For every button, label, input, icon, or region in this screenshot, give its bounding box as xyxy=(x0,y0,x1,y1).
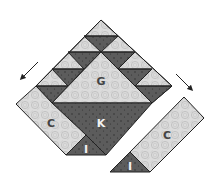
quilt-diagram: G K C I C I xyxy=(0,0,215,180)
label-g: G xyxy=(96,75,105,88)
arrow-left-icon xyxy=(22,62,38,78)
label-c-right: C xyxy=(163,129,171,142)
label-i-right: I xyxy=(128,160,132,173)
label-k: K xyxy=(97,117,106,130)
quilt-diagram-canvas: G K C I C I xyxy=(0,0,215,180)
arrow-right-icon xyxy=(176,74,191,89)
label-c-left: C xyxy=(47,117,55,130)
label-i-left: I xyxy=(84,143,88,156)
